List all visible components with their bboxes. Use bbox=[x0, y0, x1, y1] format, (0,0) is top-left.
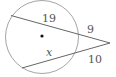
center-dot bbox=[40, 34, 43, 37]
upper-secant bbox=[11, 16, 110, 44]
label-upper-external: 9 bbox=[87, 23, 94, 36]
secants-diagram: 19 9 x 10 bbox=[0, 0, 116, 77]
label-lower-internal: x bbox=[46, 46, 53, 59]
label-upper-internal: 19 bbox=[42, 12, 56, 25]
label-lower-external: 10 bbox=[88, 53, 102, 66]
